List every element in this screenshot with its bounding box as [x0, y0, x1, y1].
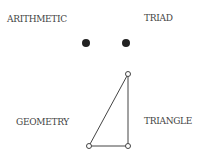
diagram: ARITHMETIC TRIAD GEOMETRY TRIANGLE — [0, 0, 213, 155]
figure-graphics — [0, 0, 213, 155]
dot-left — [82, 39, 90, 47]
triangle-shape — [87, 72, 131, 149]
dot-right — [122, 39, 130, 47]
